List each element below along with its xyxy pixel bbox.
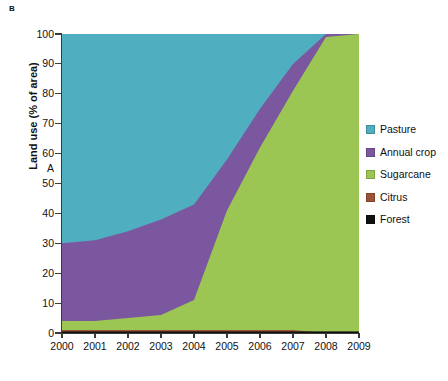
x-axis-tick (259, 333, 260, 338)
y-axis-tick-label: 70 (14, 118, 54, 128)
x-axis-tick (94, 333, 95, 338)
legend-item-label: Annual crop (380, 147, 436, 158)
y-axis-tick-label: 30 (14, 238, 54, 248)
y-axis-tick-label: 0 (14, 328, 54, 338)
y-axis-tick (55, 183, 61, 184)
panel-letter: B (9, 4, 15, 13)
y-axis-tick (55, 243, 61, 244)
y-axis-tick (55, 63, 61, 64)
area-layers (62, 34, 359, 333)
legend-item-pasture[interactable]: Pasture (366, 124, 436, 135)
x-axis-line (61, 333, 360, 334)
y-axis-tick-label: 100 (14, 29, 54, 39)
legend-item-label: Pasture (380, 124, 416, 135)
legend-swatch-icon (366, 193, 375, 202)
y-axis-tick (55, 332, 61, 333)
x-axis-tick (358, 333, 359, 338)
stacked-area-svg (62, 34, 359, 333)
y-axis-tick-label: 40 (14, 208, 54, 218)
y-axis-tick-label: 10 (14, 298, 54, 308)
y-axis-tick (55, 273, 61, 274)
x-axis-tick (127, 333, 128, 338)
y-axis-tick (55, 213, 61, 214)
x-axis-tick-label: 2009 (337, 341, 381, 352)
y-axis-tick (55, 303, 61, 304)
y-axis-tick-label: 20 (14, 268, 54, 278)
legend-item-citrus[interactable]: Citrus (366, 192, 436, 203)
figure-panel-b: B Land use (% of area) 10090807060504030… (0, 0, 448, 381)
x-axis-tick (193, 333, 194, 338)
x-axis-tick (226, 333, 227, 338)
legend-item-sugarcane[interactable]: Sugarcane (366, 169, 436, 180)
y-axis-tick-label: 90 (14, 58, 54, 68)
legend-item-label: Forest (380, 214, 410, 225)
legend-swatch-icon (366, 125, 375, 134)
stacked-area-plot (62, 34, 359, 333)
y-axis-tick (55, 153, 61, 154)
y-axis-tick (55, 33, 61, 34)
x-axis-tick (325, 333, 326, 338)
y-axis-tick (55, 93, 61, 94)
legend-item-label: Sugarcane (380, 169, 431, 180)
x-axis-tick (61, 333, 62, 338)
y-axis-tick-label: 80 (14, 88, 54, 98)
axis-stray-label-a: A (14, 163, 54, 173)
legend-swatch-icon (366, 170, 375, 179)
y-axis-tick-label: 60 (14, 148, 54, 158)
area-series-forest-baseline (62, 331, 359, 333)
legend-swatch-icon (366, 148, 375, 157)
y-axis-tick (55, 123, 61, 124)
legend-item-forest[interactable]: Forest (366, 214, 436, 225)
chart-legend: PastureAnnual cropSugarcaneCitrusForest (366, 124, 436, 225)
x-axis-tick (160, 333, 161, 338)
legend-item-label: Citrus (380, 192, 407, 203)
legend-item-annual-crop[interactable]: Annual crop (366, 147, 436, 158)
y-axis-tick-label: 50 (14, 178, 54, 188)
x-axis-tick (292, 333, 293, 338)
legend-swatch-icon (366, 215, 375, 224)
